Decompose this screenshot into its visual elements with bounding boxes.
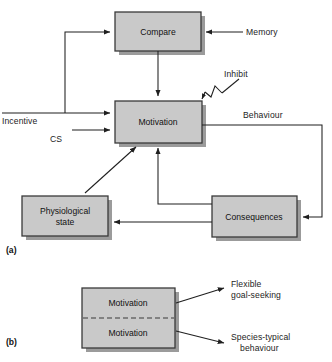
box-physiological-label-line2: state [56,217,75,228]
edge-label-behaviour: Behaviour [243,110,283,120]
box-motivation-label: Motivation [138,117,177,128]
output-label-species-line1: Species-typical [231,332,290,342]
edge-consequences-to-motivation [158,148,212,204]
box-motivation-lower-label: Motivation [108,328,147,339]
edge-label-cs: CS [50,134,62,144]
edge-incentive-to-compare [65,32,110,113]
edge-inhibit-to-motivation-upper [222,79,239,93]
figure-canvas: Compare Motivation Physiological state C… [0,0,332,362]
box-compare-label: Compare [140,27,175,38]
diagram-vector-layer [0,0,332,362]
edge-physiological-to-motivation [85,147,136,193]
edge-label-inhibit: Inhibit [224,69,248,79]
panel-label-a: (a) [6,245,17,255]
box-physiological-label-line1: Physiological [40,206,90,217]
connectors-panel-b [176,288,224,343]
edge-inhibit-break-zigzag [205,86,222,97]
edge-label-memory: Memory [246,27,278,37]
output-label-species-line2: behaviour [240,343,279,353]
edge-lower-to-species [176,331,224,343]
edge-label-incentive: Incentive [2,116,37,126]
edge-upper-to-flexible [176,288,224,303]
output-label-flexible-line2: goal-seeking [231,290,281,300]
panel-label-b: (b) [6,337,17,347]
box-motivation-upper-label: Motivation [108,298,147,309]
edge-inhibit-to-motivation-lower [202,92,205,99]
output-label-flexible-line1: Flexible [231,279,261,289]
box-consequences-label: Consequences [225,212,282,223]
